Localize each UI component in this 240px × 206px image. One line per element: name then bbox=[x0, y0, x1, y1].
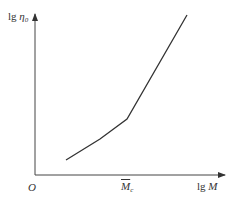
y-axis-label-sub: 0 bbox=[25, 16, 29, 24]
mc-tick-label: Mc bbox=[121, 180, 133, 194]
chart-canvas bbox=[0, 0, 240, 206]
mc-subscript: c bbox=[130, 186, 133, 194]
x-axis-label-lg: lg bbox=[197, 180, 208, 192]
origin-label: O bbox=[28, 181, 36, 193]
x-axis-label: lg M bbox=[197, 180, 217, 192]
y-axis-label-lg: lg bbox=[8, 10, 19, 22]
y-axis-label: lg η0 bbox=[8, 10, 28, 24]
mc-symbol: M bbox=[121, 180, 130, 192]
x-axis-label-m: M bbox=[208, 180, 217, 192]
viscosity-curve bbox=[66, 15, 187, 160]
